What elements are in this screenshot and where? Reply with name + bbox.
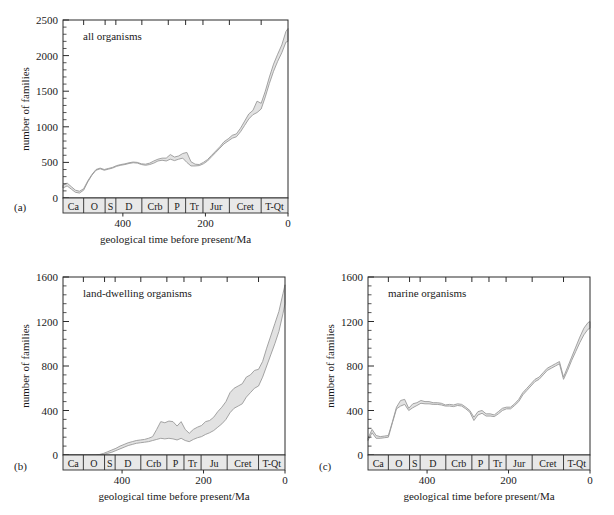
y-tick-label: 2000 — [36, 50, 59, 62]
series-title: marine organisms — [388, 287, 466, 299]
period-label-ca: Ca — [68, 458, 80, 469]
x-tick-label: 400 — [114, 474, 131, 486]
series-title: all organisms — [83, 30, 142, 42]
chart-panel-c: 040080012001600CaOSDCrbPTrJurCretT-Qt400… — [305, 255, 614, 515]
y-tick-label: 500 — [42, 156, 59, 168]
period-label-cret: Cret — [237, 201, 254, 212]
x-tick-label: 0 — [285, 217, 291, 229]
plot-frame — [368, 277, 590, 455]
y-axis-label: number of families — [19, 67, 31, 151]
chart-panel-a: 05001000150020002500CaOSDCrbPTrJurCretT-… — [0, 0, 310, 250]
y-axis-label: number of families — [324, 324, 336, 408]
y-tick-label: 800 — [347, 360, 364, 372]
y-tick-label: 400 — [42, 405, 59, 417]
period-label-t-qt: T-Qt — [262, 458, 281, 469]
y-tick-label: 0 — [53, 449, 59, 461]
period-label-ju: Ju — [210, 458, 219, 469]
period-label-tr: Tr — [188, 458, 198, 469]
period-label-o: O — [90, 458, 97, 469]
panel-label-a: (a) — [14, 201, 27, 214]
x-tick-label: 0 — [587, 474, 593, 486]
panel-label-c: (c) — [319, 460, 332, 473]
chart-svg-a: 05001000150020002500CaOSDCrbPTrJurCretT-… — [0, 0, 310, 250]
period-label-crb: Crb — [146, 458, 161, 469]
period-label-o: O — [395, 458, 402, 469]
chart-svg-c: 040080012001600CaOSDCrbPTrJurCretT-Qt400… — [305, 255, 614, 515]
period-label-d: D — [429, 458, 436, 469]
x-tick-label: 400 — [115, 217, 132, 229]
y-tick-label: 0 — [53, 192, 59, 204]
period-label-p: P — [174, 201, 180, 212]
y-tick-label: 1200 — [341, 316, 364, 328]
period-label-ca: Ca — [373, 458, 385, 469]
period-label-cret: Cret — [234, 458, 251, 469]
x-axis-label: geological time before present/Ma — [100, 233, 251, 245]
diversity-envelope-band — [63, 285, 285, 455]
period-label-s: S — [107, 458, 113, 469]
panel-label-b: (b) — [14, 460, 27, 473]
period-label-ca: Ca — [68, 201, 80, 212]
y-tick-label: 1200 — [36, 316, 59, 328]
y-tick-label: 400 — [347, 405, 364, 417]
period-label-s: S — [412, 458, 418, 469]
y-tick-label: 1600 — [341, 271, 364, 283]
period-label-tr: Tr — [190, 201, 200, 212]
y-tick-label: 1500 — [36, 85, 59, 97]
period-label-crb: Crb — [148, 201, 163, 212]
chart-svg-b: 040080012001600CaOSDCrbPTrJuCretT-Qt4002… — [0, 255, 310, 515]
x-tick-label: 200 — [197, 217, 214, 229]
period-label-p: P — [478, 458, 484, 469]
period-label-d: D — [125, 201, 132, 212]
x-tick-label: 200 — [195, 474, 212, 486]
chart-panel-b: 040080012001600CaOSDCrbPTrJuCretT-Qt4002… — [0, 255, 310, 515]
x-axis-label: geological time before present/Ma — [403, 490, 554, 502]
period-label-s: S — [108, 201, 114, 212]
y-tick-label: 1600 — [36, 271, 59, 283]
period-label-t-qt: T-Qt — [567, 458, 586, 469]
y-axis-label: number of families — [19, 324, 31, 408]
period-label-p: P — [173, 458, 179, 469]
x-tick-label: 400 — [419, 474, 436, 486]
period-label-cret: Cret — [539, 458, 556, 469]
y-tick-label: 2500 — [36, 14, 59, 26]
period-label-t-qt: T-Qt — [265, 201, 284, 212]
x-tick-label: 0 — [282, 474, 288, 486]
period-label-jur: Jur — [210, 201, 223, 212]
period-label-d: D — [124, 458, 131, 469]
x-tick-label: 200 — [500, 474, 517, 486]
y-tick-label: 800 — [42, 360, 59, 372]
y-tick-label: 0 — [358, 449, 364, 461]
diversity-envelope-band — [63, 29, 288, 193]
period-label-o: O — [91, 201, 98, 212]
period-label-jur: Jur — [513, 458, 526, 469]
period-label-tr: Tr — [493, 458, 503, 469]
series-title: land-dwelling organisms — [83, 287, 192, 299]
y-tick-label: 1000 — [36, 121, 59, 133]
x-axis-label: geological time before present/Ma — [98, 490, 249, 502]
diversity-envelope-band — [368, 322, 590, 441]
period-label-crb: Crb — [451, 458, 466, 469]
